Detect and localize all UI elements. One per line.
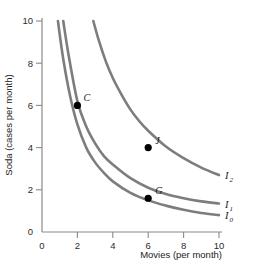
curves-group — [58, 21, 219, 215]
curve-labels-group: I0I1I2 — [224, 170, 234, 224]
y-tick-label: 2 — [28, 184, 33, 195]
data-point-G — [145, 195, 152, 202]
curve-sublabel-I2: 2 — [230, 176, 234, 184]
data-point-label-G: G — [155, 185, 162, 196]
curve-sublabel-I0: 0 — [230, 216, 234, 224]
data-point-label-C: C — [83, 92, 90, 103]
curve-label-I2: I — [224, 170, 229, 181]
curve-label-I1: I — [224, 199, 229, 210]
y-tick-label: 4 — [28, 142, 33, 153]
y-axis-label: Soda (cases per month) — [3, 74, 14, 175]
y-tick-label: 8 — [28, 58, 33, 69]
x-axis-label: Movies (per month) — [140, 249, 222, 260]
y-tick-label: 10 — [22, 15, 33, 26]
curve-I2 — [93, 21, 219, 175]
indifference-curve-chart: 0246810 0246810 I0I1I2 CJG Soda (cases p… — [0, 0, 257, 267]
data-point-C — [74, 102, 81, 109]
y-tick-label: 6 — [28, 100, 33, 111]
x-tick-label: 0 — [39, 240, 44, 251]
chart-canvas: 0246810 0246810 I0I1I2 CJG Soda (cases p… — [0, 0, 257, 267]
curve-sublabel-I1: 1 — [230, 205, 234, 213]
y-tick-label: 0 — [28, 226, 33, 237]
x-tick-label: 4 — [110, 240, 115, 251]
data-point-J — [145, 144, 152, 151]
data-point-label-J: J — [155, 135, 160, 146]
curve-label-I0: I — [224, 210, 229, 221]
curve-I1 — [63, 21, 219, 204]
y-axis-ticks: 0246810 — [22, 15, 42, 237]
x-tick-label: 2 — [75, 240, 80, 251]
